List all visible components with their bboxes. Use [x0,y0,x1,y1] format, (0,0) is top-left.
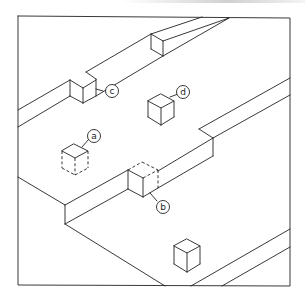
cube-a [62,139,89,175]
label-a: a [88,130,101,143]
svg-text:a: a [91,131,97,141]
label-b: b [157,201,170,214]
svg-text:d: d [180,87,186,97]
frame [18,16,290,286]
diagram-canvas: a b c d [0,0,305,300]
upper-step [18,17,229,127]
svg-text:c: c [110,86,115,96]
svg-text:b: b [160,202,166,212]
cube-d [148,94,178,125]
bottom-ramp [191,229,290,286]
cube-unlabeled [174,239,200,272]
step-diagram: a b c d [0,0,305,300]
label-c: c [106,85,119,98]
label-d: d [177,86,190,99]
cube-b [128,162,158,201]
cube-c [70,79,103,103]
